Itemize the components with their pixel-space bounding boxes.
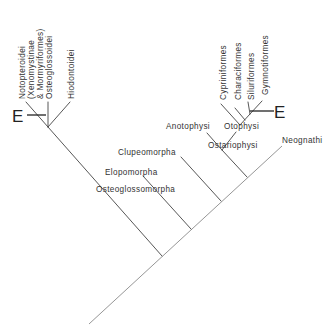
characiformes-branch bbox=[235, 108, 245, 120]
label-gymnotiformes: Gymnotiformes bbox=[261, 35, 270, 95]
label-xenomystinae: (Xenomystinae bbox=[27, 40, 36, 99]
label-neognathi: Neognathi bbox=[282, 136, 322, 145]
cladogram: Osteoglossomorpha Elopomorpha Clupeomorp… bbox=[0, 0, 334, 335]
label-ostariophysi: Ostariophysi bbox=[208, 141, 258, 150]
label-siluriformes: Siluriformes bbox=[247, 53, 256, 100]
elopomorpha-branch bbox=[143, 176, 191, 229]
label-characiformes: Characiformes bbox=[234, 42, 243, 100]
label-cypriniformes: Cypriniformes bbox=[219, 45, 228, 100]
label-notopteroidei: Notopteroidei bbox=[18, 46, 27, 99]
electroreception-label-right: E bbox=[274, 103, 285, 122]
label-osteoglossomorpha: Osteoglossomorpha bbox=[96, 185, 175, 194]
ostariophysi-branch bbox=[222, 150, 247, 177]
cladogram-svg: Osteoglossomorpha Elopomorpha Clupeomorp… bbox=[0, 0, 334, 335]
label-elopomorpha: Elopomorpha bbox=[105, 168, 158, 177]
hiodontoidei-branch bbox=[48, 102, 70, 127]
label-anotophysi: Anotophysi bbox=[166, 122, 210, 131]
siluriformes-branch bbox=[248, 102, 250, 114]
clupeomorpha-branch bbox=[181, 157, 221, 201]
label-hiodontoidei: Hiodontoidei bbox=[67, 49, 76, 99]
label-osteoglossoidei: Osteoglossoidei bbox=[45, 35, 54, 99]
electroreception-label-left: E bbox=[12, 107, 23, 126]
label-otophysi: Otophysi bbox=[224, 122, 259, 131]
label-clupeomorpha: Clupeomorpha bbox=[118, 148, 176, 157]
label-mormyriformes: & Mormyriformes) bbox=[36, 28, 45, 99]
gymnotiformes-branch bbox=[250, 101, 262, 114]
